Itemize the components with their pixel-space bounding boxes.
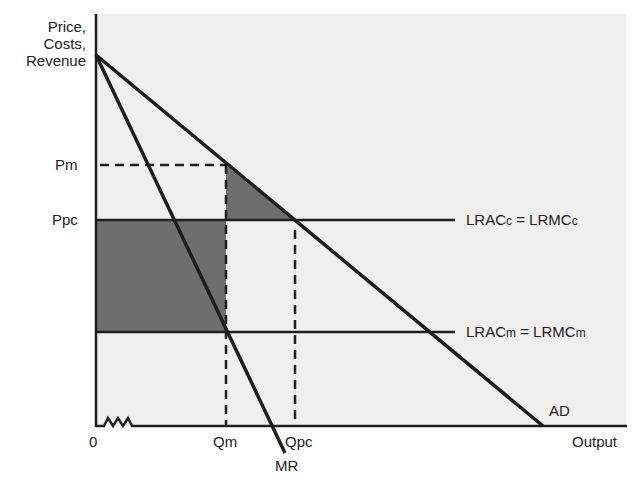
lrac-c-main: LRAC [466, 211, 506, 228]
lrac-m-eq: = LRMC [516, 323, 576, 340]
lrac-m-main: LRAC [466, 323, 506, 340]
lrac-c-label: LRACc = LRMCc [466, 211, 578, 230]
qm-label: Qm [213, 433, 237, 450]
lrac-c-eq: = LRMC [512, 211, 572, 228]
ad-label: AD [549, 402, 570, 419]
output-label: Output [572, 433, 617, 450]
origin-label: 0 [89, 433, 97, 450]
cost-saving-area [96, 220, 226, 332]
mr-label: MR [275, 457, 298, 474]
x-axis-break-icon [96, 418, 627, 426]
ppc-label: Ppc [52, 211, 78, 228]
y-label-line1: Price, [6, 18, 86, 35]
y-axis-label: Price, Costs, Revenue [6, 18, 86, 69]
lrac-c-sub2: c [572, 214, 578, 228]
lrac-m-sub: m [506, 326, 516, 340]
lrac-m-sub2: m [576, 326, 586, 340]
diagram-canvas [0, 0, 634, 482]
y-label-line2: Costs, [6, 35, 86, 52]
pm-label: Pm [55, 156, 78, 173]
y-label-line3: Revenue [6, 52, 86, 69]
lrac-m-label: LRACm = LRMCm [466, 323, 586, 342]
qpc-label: Qpc [285, 433, 313, 450]
